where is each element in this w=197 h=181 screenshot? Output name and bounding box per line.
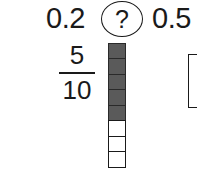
denominator: 10 — [59, 77, 95, 103]
empty-cell — [108, 120, 126, 137]
question-mark: ? — [115, 5, 129, 34]
empty-cell — [108, 151, 126, 168]
shaded-cell — [108, 105, 126, 122]
shaded-cell — [108, 74, 126, 91]
right-decimal: 0.5 — [152, 4, 191, 33]
comparison-circle[interactable]: ? — [101, 1, 143, 37]
left-decimal: 0.2 — [46, 4, 85, 33]
shaded-cell — [108, 89, 126, 106]
fraction: 5 10 — [59, 42, 95, 103]
numerator: 5 — [59, 42, 95, 70]
tenths-strip — [108, 44, 126, 168]
fraction-bar — [59, 72, 95, 74]
empty-cell — [108, 136, 126, 153]
shaded-cell — [108, 58, 126, 75]
answer-box[interactable] — [188, 54, 197, 108]
shaded-cell — [108, 43, 126, 60]
